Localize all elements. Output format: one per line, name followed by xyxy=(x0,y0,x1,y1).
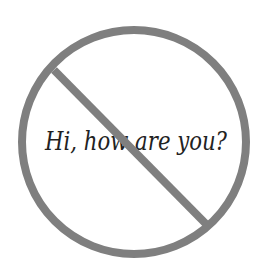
prohibition-sign: Hi, how are you? xyxy=(0,0,265,277)
